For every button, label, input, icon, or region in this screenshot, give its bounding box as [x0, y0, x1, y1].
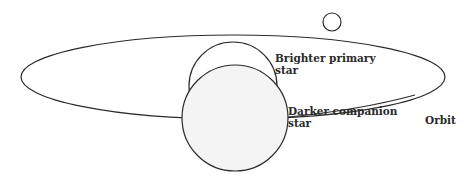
- small-star-icon: [323, 13, 341, 31]
- binary-star-diagram: [0, 0, 470, 180]
- orbit-label: Orbit: [425, 114, 456, 126]
- companion-star-label: Darker companion star: [288, 105, 398, 129]
- companion-star: [182, 65, 288, 171]
- companion-star-label-line1: Darker companion: [288, 105, 398, 117]
- primary-star-label-line2: star: [275, 64, 376, 76]
- primary-star-label: Brighter primary star: [275, 52, 376, 76]
- orbit-label-text: Orbit: [425, 114, 456, 126]
- companion-star-label-line2: star: [288, 117, 398, 129]
- primary-star-label-line1: Brighter primary: [275, 52, 376, 64]
